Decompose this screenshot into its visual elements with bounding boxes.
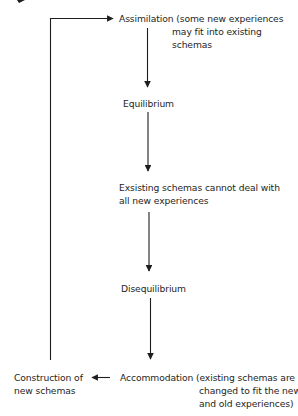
node-existing-schemas: Exsisting schemas cannot deal with all n… xyxy=(119,181,280,207)
assimilation-note-3: schemas xyxy=(119,38,283,51)
assimilation-note-1: (some new experiences xyxy=(176,13,283,24)
accommodation-term: Accommodation xyxy=(120,372,193,383)
accommodation-note-1: (existing schemas are xyxy=(196,372,295,383)
accommodation-note-2: changed to fit the new xyxy=(120,384,298,397)
node-construction: Construction of new schemas xyxy=(14,371,83,397)
disequilibrium-label: Disequilibrium xyxy=(121,282,186,295)
cropped-arrowhead-artifact xyxy=(17,0,25,3)
node-equilibrium: Equilibrium xyxy=(123,97,174,110)
node-assimilation: Assimilation (some new experiences may f… xyxy=(119,12,283,51)
construction-line-2: new schemas xyxy=(14,384,83,397)
node-accommodation: Accommodation (existing schemas are chan… xyxy=(120,371,298,410)
accommodation-note-3: and old experiences) xyxy=(120,397,298,410)
existing-schemas-line-2: all new experiences xyxy=(119,194,280,207)
assimilation-term: Assimilation xyxy=(119,13,174,24)
feedback-loop-edge xyxy=(51,19,114,361)
connector-lines xyxy=(0,0,298,416)
existing-schemas-line-1: Exsisting schemas cannot deal with xyxy=(119,181,280,194)
node-disequilibrium: Disequilibrium xyxy=(121,282,186,295)
construction-line-1: Construction of xyxy=(14,371,83,384)
piaget-cycle-diagram: Assimilation (some new experiences may f… xyxy=(0,0,298,416)
assimilation-note-2: may fit into existing xyxy=(119,25,283,38)
equilibrium-label: Equilibrium xyxy=(123,97,174,110)
